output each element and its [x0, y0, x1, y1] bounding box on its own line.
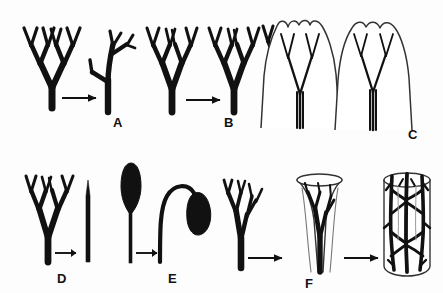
telome-theory-figure: A B C D E F [0, 0, 443, 293]
panel-label-f: F [305, 277, 313, 290]
panel-label-a: A [113, 116, 122, 129]
panel-f-reticulum [384, 174, 430, 272]
panel-d-spine [86, 180, 90, 262]
panel-d-stage-2-reduced-spine [86, 180, 90, 262]
panel-label-e: E [168, 272, 177, 285]
panel-e-stage-2-sporangium [187, 192, 211, 235]
panel-label-c: C [408, 128, 417, 141]
panel-label-d: D [57, 272, 66, 285]
panel-c-stage-3-complete-webbing [335, 22, 412, 130]
panel-f-stage-3-reticulate-cylinder [384, 173, 430, 276]
figure-canvas [0, 0, 443, 293]
panel-e-stage-1-stalk [130, 212, 131, 262]
panel-label-b: B [224, 116, 233, 129]
panel-f-funnel-rim [297, 174, 342, 186]
